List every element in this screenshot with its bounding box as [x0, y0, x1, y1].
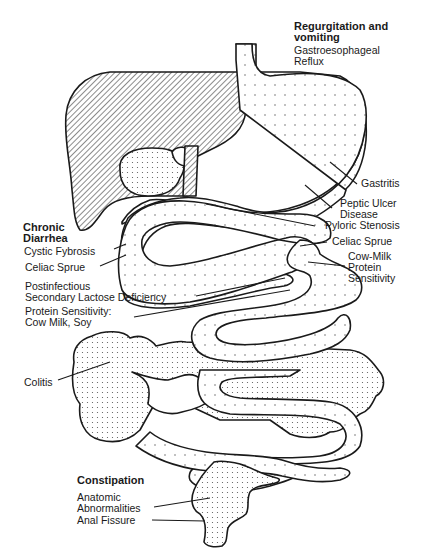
label-celiac-sprue-left: Celiac Sprue: [25, 262, 85, 273]
rectum-shape: [192, 461, 279, 547]
label-colitis: Colitis: [24, 377, 53, 388]
heading-regurgitation: Regurgitation and vomiting: [294, 21, 388, 43]
label-anal-fissure: Anal Fissure: [77, 515, 135, 526]
label-postinfectious-lactose-deficiency: Postinfectious Secondary Lactose Deficie…: [25, 281, 166, 303]
bile-duct-shape: [183, 146, 198, 196]
label-protein-sensitivity: Protein Sensitivity: Cow Milk, Soy: [25, 306, 111, 328]
heading-chronic-diarrhea: Chronic Diarrhea: [23, 222, 68, 244]
heading-constipation: Constipation: [77, 475, 144, 486]
label-celiac-sprue-right: Celiac Sprue: [332, 236, 392, 247]
label-cystic-fybrosis: Cystic Fybrosis: [24, 246, 95, 257]
label-gastritis: Gastritis: [361, 178, 400, 189]
label-cow-milk-protein-sensitivity: Cow-Milk Protein Sensitivity: [348, 251, 395, 284]
leader-anal-fissure: [152, 520, 205, 521]
label-anatomic-abnormalities: Anatomic Abnormalities: [77, 492, 141, 514]
label-peptic-ulcer-disease: Peptic Ulcer Disease: [340, 198, 397, 220]
label-pyloric-stenosis: Pyloric Stenosis: [325, 220, 400, 231]
label-gastroesophageal-reflux: Gastroesophageal Reflux: [294, 45, 380, 67]
